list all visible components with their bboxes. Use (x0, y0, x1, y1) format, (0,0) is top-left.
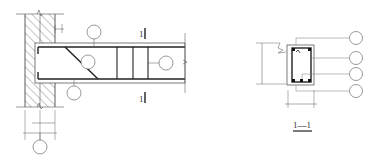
elevation-view: 1 1 (16, 10, 187, 154)
section-callout-3 (350, 68, 363, 81)
dimension-cover-top (55, 24, 64, 33)
section-mark-bottom: 1 (139, 92, 145, 104)
beam-detail-drawing: 1 1 (0, 0, 374, 164)
section-mark-top: 1 (139, 28, 145, 39)
svg-text:1: 1 (139, 94, 144, 104)
section-view: 1—1 (256, 32, 363, 132)
callout-bent-bar (81, 55, 95, 69)
svg-text:1: 1 (139, 29, 144, 39)
section-callout-1 (350, 32, 363, 45)
section-callout-2 (350, 52, 363, 65)
section-title: 1—1 (293, 120, 311, 130)
dimension-section-width (285, 90, 317, 108)
dimension-wall-bottom (23, 110, 57, 154)
section-callout-4 (350, 85, 363, 98)
dimension-section-height (256, 43, 286, 84)
